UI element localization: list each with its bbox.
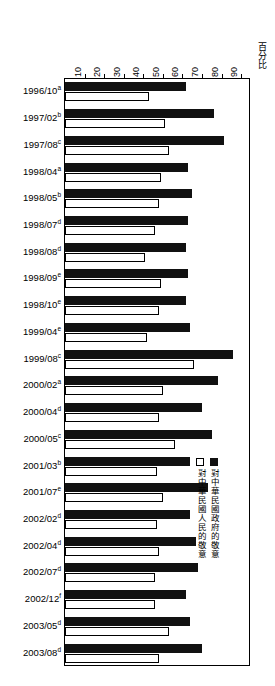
bar-people bbox=[65, 226, 155, 235]
category-footnote: b bbox=[57, 111, 61, 118]
axis-tick-label: 10 bbox=[76, 67, 85, 77]
bar-group bbox=[65, 243, 251, 263]
bar-group bbox=[65, 430, 251, 450]
bar-people bbox=[65, 493, 163, 502]
category-label: 1997/02b bbox=[2, 112, 64, 123]
bar-people bbox=[65, 573, 155, 582]
bar-government bbox=[65, 109, 214, 118]
category-label: 1998/07d bbox=[2, 219, 64, 230]
category-footnote: c bbox=[58, 432, 61, 439]
bar-government bbox=[65, 457, 190, 466]
bar-chart: 百分比 1996/10a1997/02b1997/08c1998/04a1998… bbox=[0, 0, 275, 686]
axis-tick-mark bbox=[163, 74, 164, 79]
category-footnote: a bbox=[57, 84, 61, 91]
bar-group bbox=[65, 403, 251, 423]
category-footnote: d bbox=[57, 405, 61, 412]
bar-people bbox=[65, 333, 147, 342]
legend-item: 對中華民國政府的敬意 bbox=[210, 458, 219, 559]
bar-people bbox=[65, 199, 159, 208]
legend-swatch-hollow bbox=[196, 458, 204, 466]
category-footnote: d bbox=[57, 565, 61, 572]
bar-government bbox=[65, 537, 196, 546]
category-label: 1998/05b bbox=[2, 192, 64, 203]
legend-label: 對中華民國政府的敬意 bbox=[210, 469, 219, 559]
bar-government bbox=[65, 243, 186, 252]
category-label: 1998/04a bbox=[2, 166, 64, 177]
bar-group bbox=[65, 350, 251, 370]
bar-government bbox=[65, 644, 202, 653]
category-label: 2000/02a bbox=[2, 379, 64, 390]
bar-group bbox=[65, 590, 251, 610]
bar-people bbox=[65, 173, 161, 182]
bar-government bbox=[65, 216, 188, 225]
legend-item: 對中華民國人民的敬意 bbox=[196, 458, 205, 559]
legend-swatch-filled bbox=[210, 458, 218, 466]
category-label: 2001/03b bbox=[2, 460, 64, 471]
bar-group bbox=[65, 323, 251, 343]
bar-people bbox=[65, 253, 145, 262]
category-footnote: d bbox=[57, 245, 61, 252]
category-label: 2000/05c bbox=[2, 433, 64, 444]
bar-people bbox=[65, 440, 175, 449]
bar-group bbox=[65, 109, 251, 129]
category-label: 2002/12f bbox=[2, 593, 64, 604]
axis-tick-mark bbox=[241, 74, 242, 79]
category-label: 1998/08d bbox=[2, 246, 64, 257]
axis-tick-label: 20 bbox=[95, 67, 104, 77]
category-footnote: f bbox=[59, 592, 61, 599]
category-axis: 1996/10a1997/02b1997/08c1998/04a1998/05b… bbox=[0, 78, 64, 666]
category-label: 1997/08c bbox=[2, 139, 64, 150]
category-label: 2000/04d bbox=[2, 406, 64, 417]
category-footnote: d bbox=[57, 512, 61, 519]
bar-group bbox=[65, 376, 251, 396]
axis-tick-label: 80 bbox=[213, 67, 222, 77]
axis-tick-label: 50 bbox=[154, 67, 163, 77]
category-label: 2002/07d bbox=[2, 566, 64, 577]
axis-tick-label: 40 bbox=[134, 67, 143, 77]
bar-people bbox=[65, 386, 163, 395]
bar-group bbox=[65, 644, 251, 664]
bar-group bbox=[65, 136, 251, 156]
bar-group bbox=[65, 563, 251, 583]
axis-tick-mark bbox=[104, 74, 105, 79]
category-label: 2003/08d bbox=[2, 647, 64, 658]
bar-people bbox=[65, 146, 169, 155]
category-footnote: d bbox=[57, 539, 61, 546]
bar-people bbox=[65, 413, 159, 422]
axis-tick-mark bbox=[143, 74, 144, 79]
bar-group bbox=[65, 296, 251, 316]
bar-government bbox=[65, 350, 233, 359]
bar-government bbox=[65, 563, 198, 572]
category-label: 1999/08c bbox=[2, 353, 64, 364]
category-label: 2002/02d bbox=[2, 513, 64, 524]
category-label: 1996/10a bbox=[2, 85, 64, 96]
bar-people bbox=[65, 600, 155, 609]
bar-group bbox=[65, 82, 251, 102]
category-label: 2003/05d bbox=[2, 620, 64, 631]
category-footnote: e bbox=[57, 325, 61, 332]
axis-tick-label: 60 bbox=[173, 67, 182, 77]
category-label: 1999/04e bbox=[2, 326, 64, 337]
axis-title: 百分比 bbox=[256, 42, 269, 69]
bar-people bbox=[65, 279, 161, 288]
category-footnote: e bbox=[57, 271, 61, 278]
bar-government bbox=[65, 296, 186, 305]
bar-government bbox=[65, 82, 186, 91]
plot-area: 102030405060708090 bbox=[64, 78, 250, 666]
chart-legend: 對中華民國政府的敬意對中華民國人民的敬意 bbox=[196, 458, 218, 559]
category-footnote: b bbox=[57, 459, 61, 466]
bar-group bbox=[65, 483, 251, 503]
bar-group bbox=[65, 510, 251, 530]
axis-tick-label: 30 bbox=[115, 67, 124, 77]
bar-government bbox=[65, 136, 224, 145]
bar-people bbox=[65, 627, 169, 636]
category-footnote: a bbox=[57, 378, 61, 385]
bar-government bbox=[65, 510, 190, 519]
bar-government bbox=[65, 376, 218, 385]
category-footnote: a bbox=[57, 165, 61, 172]
bar-government bbox=[65, 189, 192, 198]
bar-group bbox=[65, 216, 251, 236]
bar-government bbox=[65, 483, 208, 492]
category-label: 2001/07e bbox=[2, 486, 64, 497]
bar-group bbox=[65, 189, 251, 209]
